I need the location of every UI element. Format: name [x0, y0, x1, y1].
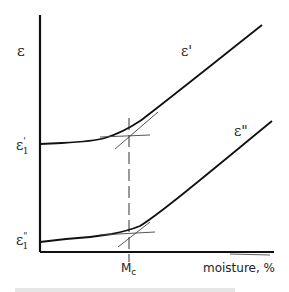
- critical-moisture-label-base: M: [121, 261, 131, 275]
- x-axis-stroke-echo: [230, 254, 270, 255]
- start-label-eps-double-prime-sub: 1: [22, 241, 28, 251]
- tangent-eps-prime-flat: [100, 135, 150, 137]
- start-label-eps-double-prime: ε"1: [16, 231, 28, 251]
- start-label-eps-prime-sup: ': [23, 136, 25, 146]
- tangent-eps-double-prime-slope: [118, 222, 150, 247]
- tangent-eps-double-prime-flat: [100, 232, 155, 235]
- moisture-permittivity-diagram: ε ε' ε" ε'1 ε"1 Mc moisture, %: [0, 0, 289, 292]
- start-label-eps-prime-sub: 1: [23, 146, 29, 156]
- curve-eps-prime: [40, 25, 262, 144]
- curve-label-eps-double-prime: ε": [234, 123, 248, 139]
- diagram-svg: ε ε' ε" ε'1 ε"1 Mc moisture, %: [0, 0, 289, 292]
- y-axis-label: ε: [17, 42, 25, 60]
- curve-label-eps-prime: ε': [181, 43, 192, 59]
- start-label-eps-double-prime-sup: ": [23, 231, 27, 241]
- start-label-eps-prime: ε'1: [16, 136, 28, 156]
- clipped-caption-strip: [15, 288, 235, 292]
- critical-moisture-label: Mc: [121, 261, 136, 277]
- x-axis-label: moisture, %: [203, 261, 275, 275]
- critical-moisture-label-sub: c: [131, 267, 136, 277]
- curve-eps-double-prime: [40, 121, 272, 242]
- tangent-eps-prime-slope: [115, 112, 158, 149]
